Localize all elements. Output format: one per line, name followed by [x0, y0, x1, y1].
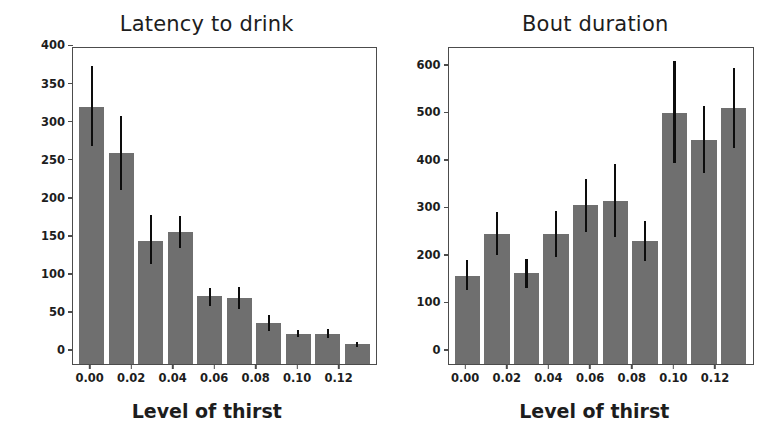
y-tick-label: 400: [41, 38, 68, 52]
y-tick: 300: [416, 200, 448, 214]
plot-area-bout: 0100200300400500600 0.000.020.040.060.08…: [448, 47, 754, 365]
y-tick-label: 100: [416, 295, 443, 309]
bar-slot: [482, 48, 512, 364]
y-tick-label: 0: [57, 343, 68, 357]
bar-slot: [107, 48, 137, 364]
x-tick-label: 0.12: [701, 371, 729, 385]
x-tick: 0.04: [158, 364, 186, 385]
bar-slot: [541, 48, 571, 364]
x-tick: 0.06: [576, 364, 604, 385]
y-tick-label: 300: [41, 115, 68, 129]
x-tick-mark: [631, 364, 633, 369]
panel-title: Latency to drink: [0, 12, 388, 36]
y-tick: 100: [416, 295, 448, 309]
y-tick: 600: [416, 58, 448, 72]
x-tick-mark: [130, 364, 132, 369]
bar[interactable]: [315, 334, 340, 364]
x-tick: 0.08: [241, 364, 269, 385]
bar-slot: [195, 48, 225, 364]
error-bar: [209, 288, 211, 306]
x-tick: 0.06: [200, 364, 228, 385]
plot-area-latency: 050100150200250300350400 0.000.020.040.0…: [72, 47, 377, 365]
error-bar: [268, 315, 270, 331]
x-tick-mark: [589, 364, 591, 369]
x-tick: 0.10: [659, 364, 687, 385]
y-tick: 0: [57, 343, 73, 357]
bar[interactable]: [286, 334, 311, 364]
error-bar: [120, 116, 122, 191]
error-bar: [555, 211, 557, 256]
x-tick: 0.02: [117, 364, 145, 385]
bar-slot: [571, 48, 601, 364]
x-tick-label: 0.04: [534, 371, 562, 385]
x-tick-label: 0.02: [117, 371, 145, 385]
bar-slot: [313, 48, 343, 364]
y-tick-label: 50: [49, 305, 68, 319]
y-tick: 300: [41, 115, 73, 129]
x-tick-mark: [548, 364, 550, 369]
bar-slot: [453, 48, 483, 364]
error-bar: [150, 215, 152, 264]
x-tick-mark: [714, 364, 716, 369]
error-bar: [644, 221, 646, 261]
error-bar: [356, 342, 358, 347]
x-tick-mark: [464, 364, 466, 369]
x-tick-label: 0.00: [451, 371, 479, 385]
y-tick: 500: [416, 105, 448, 119]
y-tick-label: 600: [416, 58, 443, 72]
x-tick-label: 0.04: [158, 371, 186, 385]
bar-slot: [254, 48, 284, 364]
bar-slot: [689, 48, 719, 364]
error-bar: [238, 287, 240, 309]
x-tick: 0.12: [324, 364, 352, 385]
bar[interactable]: [168, 232, 193, 364]
y-tick: 200: [41, 191, 73, 205]
y-tick: 0: [432, 343, 448, 357]
x-tick: 0.00: [75, 364, 103, 385]
bar-slot: [512, 48, 542, 364]
panel-latency-to-drink: Latency to drink Mean time (a.u) 0501001…: [0, 0, 388, 430]
y-tick-label: 350: [41, 77, 68, 91]
panel-title: Bout duration: [388, 12, 775, 36]
x-tick-mark: [172, 364, 174, 369]
x-tick-label: 0.02: [493, 371, 521, 385]
bar[interactable]: [197, 296, 222, 364]
error-bar: [525, 259, 527, 288]
error-bar: [614, 164, 616, 237]
bar-slot: [136, 48, 166, 364]
bar-slot: [660, 48, 690, 364]
error-bar: [327, 329, 329, 338]
x-tick-label: 0.00: [75, 371, 103, 385]
bar-slot: [630, 48, 660, 364]
y-tick-label: 250: [41, 153, 68, 167]
x-tick-label: 0.08: [618, 371, 646, 385]
bar-series-latency: [73, 48, 376, 364]
y-tick-label: 200: [416, 248, 443, 262]
x-axis-ticks: 0.000.020.040.060.080.100.12: [449, 364, 753, 390]
error-bar: [733, 68, 735, 148]
x-tick-mark: [213, 364, 215, 369]
bar-slot: [77, 48, 107, 364]
error-bar: [91, 66, 93, 147]
y-tick: 150: [41, 229, 73, 243]
y-tick: 50: [49, 305, 73, 319]
x-tick: 0.10: [283, 364, 311, 385]
figure: Latency to drink Mean time (a.u) 0501001…: [0, 0, 775, 430]
x-tick-mark: [89, 364, 91, 369]
y-tick: 100: [41, 267, 73, 281]
y-tick: 350: [41, 77, 73, 91]
x-tick-label: 0.06: [200, 371, 228, 385]
error-bar: [673, 61, 675, 163]
x-tick-mark: [296, 364, 298, 369]
bar[interactable]: [345, 344, 370, 364]
error-bar: [585, 179, 587, 232]
x-axis-label: Level of thirst: [0, 400, 388, 422]
error-bar: [179, 216, 181, 249]
y-tick-label: 0: [432, 343, 443, 357]
y-tick: 200: [416, 248, 448, 262]
x-tick-mark: [673, 364, 675, 369]
error-bar: [496, 212, 498, 254]
error-bar: [297, 330, 299, 337]
y-tick-label: 300: [416, 200, 443, 214]
x-tick: 0.08: [618, 364, 646, 385]
